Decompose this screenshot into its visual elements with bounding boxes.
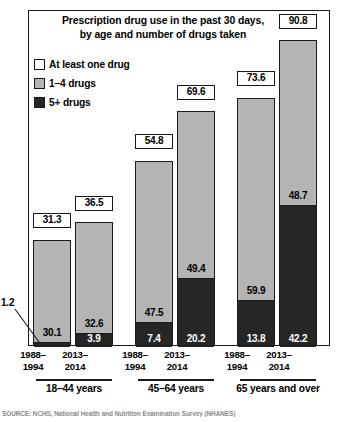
x-axis-baseline [28, 345, 330, 347]
bar-segment-dark-g3-b2: 42.2 [280, 205, 316, 347]
bar-segment-gray-g1-b1: 30.1 [34, 241, 70, 342]
bar-g3-b1: 59.9 13.8 [237, 98, 275, 345]
bar-segment-dark-g2-b2: 20.2 [178, 278, 214, 347]
x-label-g2-b2: 2013– 2014 [155, 349, 199, 372]
total-label-g1-b1: 31.3 [33, 213, 71, 228]
bar-segment-dark-g3-b1: 13.8 [238, 300, 274, 347]
source-note: SOURCE: NCHS, National Health and Nutrit… [2, 410, 339, 417]
bar-g2-b1: 47.5 7.4 [135, 161, 173, 345]
bar-segment-gray-g3-b1: 59.9 [238, 99, 274, 300]
x-label-g3-b1: 1988– 1994 [215, 349, 259, 372]
x-label-g2-b2-line2: 2014 [155, 361, 199, 373]
segment-value-dark-g2-b2: 20.2 [178, 333, 214, 344]
total-label-g3-b1: 73.6 [237, 71, 275, 86]
segment-value-gray-g3-b2: 48.7 [280, 190, 316, 201]
bar-segment-gray-g1-b2: 32.6 [76, 223, 112, 333]
bar-g1-b2: 32.6 3.9 [75, 222, 113, 345]
x-label-g1-b2-line1: 2013– [53, 349, 97, 361]
x-label-g1-b1: 1988– 1994 [11, 349, 55, 372]
bar-g1-b1: 30.1 1.2 [33, 240, 71, 345]
segment-value-gray-g3-b1: 59.9 [238, 285, 274, 296]
figure-container: Prescription drug use in the past 30 day… [0, 0, 339, 422]
group-rule-45-64 [138, 379, 214, 381]
x-label-g3-b2-line2: 2014 [257, 361, 301, 373]
bar-segment-dark-g2-b1: 7.4 [136, 322, 172, 348]
group-label-45-64: 45–64 years [128, 383, 224, 395]
group-label-18-44: 18–44 years [26, 383, 122, 395]
total-label-g3-b2: 90.8 [279, 14, 317, 29]
bar-g2-b2: 49.4 20.2 [177, 111, 215, 345]
segment-value-dark-g2-b1: 7.4 [136, 333, 172, 344]
x-label-g2-b1: 1988– 1994 [113, 349, 157, 372]
bar-segment-gray-g2-b2: 49.4 [178, 112, 214, 278]
bar-g3-b2: 48.7 42.2 [279, 40, 317, 345]
group-rule-65-over [240, 379, 316, 381]
total-label-g1-b2: 36.5 [75, 196, 113, 211]
x-label-g2-b2-line1: 2013– [155, 349, 199, 361]
x-label-g3-b2: 2013– 2014 [257, 349, 301, 372]
group-rule-18-44 [36, 379, 112, 381]
bar-segment-gray-g2-b1: 47.5 [136, 162, 172, 322]
x-axis-labels: 1988– 1994 2013– 2014 1988– 1994 2013– 2… [0, 349, 339, 379]
x-label-g1-b1-line1: 1988– [11, 349, 55, 361]
segment-value-gray-g1-b1: 30.1 [34, 327, 70, 338]
callout-value-1-2: 1.2 [1, 297, 14, 308]
total-label-g2-b1: 54.8 [135, 134, 173, 149]
total-label-g2-b2: 69.6 [177, 85, 215, 100]
segment-value-dark-g3-b1: 13.8 [238, 333, 274, 344]
x-label-g1-b2-line2: 2014 [53, 361, 97, 373]
x-label-g1-b1-line2: 1994 [11, 361, 55, 373]
group-label-65-over: 65 years and over [222, 383, 334, 395]
segment-value-dark-g3-b2: 42.2 [280, 333, 316, 344]
segment-value-gray-g2-b1: 47.5 [136, 307, 172, 318]
x-label-g1-b2: 2013– 2014 [53, 349, 97, 372]
segment-value-gray-g2-b2: 49.4 [178, 263, 214, 274]
x-label-g2-b1-line2: 1994 [113, 361, 157, 373]
x-label-g3-b1-line2: 1994 [215, 361, 259, 373]
x-label-g2-b1-line1: 1988– [113, 349, 157, 361]
segment-value-gray-g1-b2: 32.6 [76, 318, 112, 329]
bar-segment-gray-g3-b2: 48.7 [280, 41, 316, 205]
x-label-g3-b2-line1: 2013– [257, 349, 301, 361]
x-label-g3-b1-line1: 1988– [215, 349, 259, 361]
segment-value-dark-g1-b2: 3.9 [76, 333, 112, 344]
plot-area: 31.3 30.1 1.2 36.5 32.6 3.9 54.8 47.5 [28, 10, 330, 346]
